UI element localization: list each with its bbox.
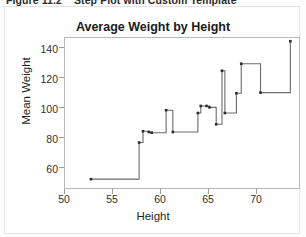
data-point-marker — [172, 131, 175, 134]
data-point-marker — [215, 123, 218, 126]
step-plot-svg — [5, 7, 301, 235]
data-point-marker — [142, 130, 145, 133]
data-point-marker — [221, 69, 224, 72]
chart-card: Average Weight by Height 140 120 100 80 … — [4, 6, 300, 234]
data-point-marker — [224, 112, 227, 115]
data-point-marker — [138, 141, 141, 144]
data-point-marker — [240, 62, 243, 65]
data-point-marker — [165, 109, 168, 112]
step-series — [90, 40, 292, 181]
data-point-marker — [197, 112, 200, 115]
data-point-marker — [235, 92, 238, 95]
data-point-marker — [147, 131, 150, 134]
data-point-marker — [150, 131, 153, 134]
data-point-markers — [90, 40, 292, 181]
axis-ticks — [59, 48, 257, 195]
data-point-marker — [259, 91, 262, 94]
figure-screenshot: Figure 11.2Step Plot with Custom Templat… — [0, 0, 306, 237]
data-point-marker — [199, 105, 202, 108]
data-point-marker — [90, 178, 93, 181]
data-point-marker — [289, 40, 292, 43]
data-point-marker — [208, 106, 211, 109]
data-point-marker — [205, 105, 208, 108]
